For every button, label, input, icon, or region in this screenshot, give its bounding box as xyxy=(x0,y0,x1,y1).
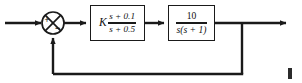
summing-junction-minus-sign: − xyxy=(55,24,60,33)
plant-transfer-function: 10 s(s + 1) xyxy=(176,11,208,35)
plant-numerator: 10 xyxy=(186,11,198,21)
plant-denominator: s(s + 1) xyxy=(176,25,208,35)
plant-block: 10 s(s + 1) xyxy=(168,5,215,41)
compensator-fraction: s + 0.1 s + 0.5 xyxy=(108,12,136,35)
compensator-denominator: s + 0.5 xyxy=(108,25,136,35)
page-edge-artifact xyxy=(288,68,292,79)
compensator-transfer-function: K s + 0.1 s + 0.5 xyxy=(99,12,136,35)
compensator-block: K s + 0.1 s + 0.5 xyxy=(90,5,145,41)
diagram-wires xyxy=(0,0,302,83)
compensator-gain-label: K xyxy=(99,17,107,29)
compensator-numerator: s + 0.1 xyxy=(108,12,136,22)
summing-junction-plus-sign: + xyxy=(45,16,50,25)
plant-fraction: 10 s(s + 1) xyxy=(176,11,208,35)
block-diagram: + − K s + 0.1 s + 0.5 10 s(s + 1) xyxy=(0,0,302,83)
